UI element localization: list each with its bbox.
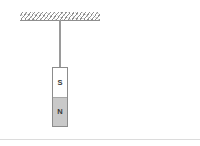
bottom-divider [0,139,200,140]
bar-magnet: S N [52,67,68,127]
physics-diagram-canvas: S N [0,0,200,146]
suspension-string [59,20,61,68]
magnet-pole-south-label: S [57,79,62,87]
magnet-pole-south: S [53,68,67,97]
magnet-pole-north: N [53,97,67,126]
magnet-pole-north-label: N [57,108,63,116]
